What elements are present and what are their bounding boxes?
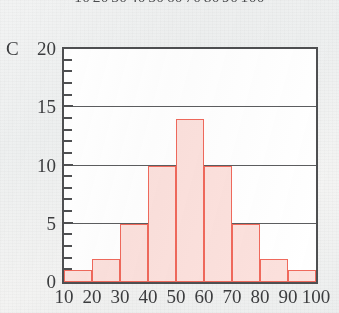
plot-area bbox=[62, 47, 318, 284]
x-axis-tick-labels: 102030405060708090100 bbox=[62, 287, 318, 313]
histogram-chart: C 05101520 102030405060708090100 bbox=[0, 0, 339, 313]
y-axis-tick-label: 10 bbox=[16, 156, 56, 175]
histogram-bar bbox=[92, 259, 120, 282]
bar-series bbox=[64, 49, 316, 282]
histogram-bar bbox=[260, 259, 288, 282]
scanned-page: 102030405060708090100 C 05101520 1020304… bbox=[0, 0, 339, 313]
histogram-bar bbox=[204, 166, 232, 283]
y-axis-tick-labels: 05101520 bbox=[8, 47, 56, 284]
histogram-bar bbox=[288, 270, 316, 282]
histogram-bar bbox=[64, 270, 92, 282]
histogram-bar bbox=[120, 224, 148, 282]
y-axis-tick-label: 15 bbox=[16, 97, 56, 116]
x-axis-tick-label: 100 bbox=[296, 287, 336, 306]
histogram-bar bbox=[176, 119, 204, 282]
y-axis-tick-label: 5 bbox=[16, 214, 56, 233]
histogram-bar bbox=[148, 166, 176, 283]
y-axis-tick-label: 20 bbox=[16, 39, 56, 58]
histogram-bar bbox=[232, 224, 260, 282]
